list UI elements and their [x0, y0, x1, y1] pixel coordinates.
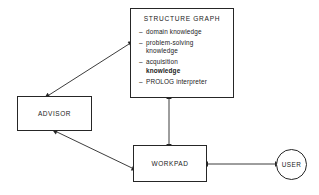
structure-graph-item-list: – domain knowledge – problem-solving kno…	[139, 28, 229, 88]
structure-graph-item-acquisition-knowledge: – acquisition knowledge	[139, 58, 229, 75]
structure-graph-item-prolog-interpreter: – PROLOG interpreter	[139, 78, 229, 86]
user-label: USER	[277, 161, 306, 167]
connector-advisor-workpad	[57, 132, 132, 168]
diagram-canvas: STRUCTURE GRAPH – domain knowledge – pro…	[0, 0, 319, 195]
list-dash-icon: –	[139, 28, 143, 36]
list-dash-icon: –	[139, 39, 143, 47]
structure-graph-item-line: knowledge	[146, 67, 229, 75]
structure-graph-item-problem-solving-knowledge: – problem-solving knowledge	[139, 39, 229, 56]
structure-graph-item-line: knowledge	[146, 47, 229, 55]
node-user[interactable]: USER	[276, 149, 307, 180]
structure-graph-item-domain-knowledge: – domain knowledge	[139, 28, 229, 36]
structure-graph-item-line: domain knowledge	[146, 28, 229, 36]
advisor-label: ADVISOR	[18, 110, 91, 117]
list-dash-icon: –	[139, 78, 143, 86]
workpad-label: WORKPAD	[134, 160, 206, 167]
list-dash-icon: –	[139, 58, 143, 66]
node-structure-graph[interactable]: STRUCTURE GRAPH – domain knowledge – pro…	[130, 8, 234, 98]
connector-advisor-structure-graph	[49, 44, 129, 95]
structure-graph-item-line: acquisition	[146, 58, 229, 66]
structure-graph-title: STRUCTURE GRAPH	[131, 15, 233, 22]
structure-graph-item-line: PROLOG interpreter	[146, 78, 229, 86]
node-workpad[interactable]: WORKPAD	[133, 145, 207, 182]
node-advisor[interactable]: ADVISOR	[17, 96, 92, 131]
structure-graph-item-line: problem-solving	[146, 39, 229, 47]
